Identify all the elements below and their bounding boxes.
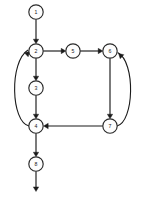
- arrowhead-e4: [33, 76, 38, 81]
- graph-node-7[interactable]: 7: [103, 119, 117, 133]
- arrowhead-e7: [44, 123, 49, 128]
- edge-n4-to-n2: [15, 50, 29, 126]
- node-label-7: 7: [109, 123, 112, 129]
- arrowhead-e5: [33, 114, 38, 119]
- node-label-8: 8: [35, 161, 38, 167]
- arrowhead-e1: [33, 39, 38, 44]
- node-label-1: 1: [35, 9, 38, 15]
- graph-node-4[interactable]: 4: [29, 119, 43, 133]
- graph-node-3[interactable]: 3: [29, 81, 43, 95]
- graph-node-2[interactable]: 2: [29, 44, 43, 58]
- arrowhead-e3: [98, 48, 103, 53]
- node-label-3: 3: [35, 85, 38, 91]
- node-label-4: 4: [35, 123, 38, 129]
- graph-node-5[interactable]: 5: [66, 44, 80, 58]
- graph-node-6[interactable]: 6: [103, 44, 117, 58]
- arrowhead-e10: [33, 152, 38, 157]
- node-label-2: 2: [35, 48, 38, 54]
- arrowhead-e2: [61, 48, 66, 53]
- node-label-6: 6: [109, 48, 112, 54]
- arrowhead-e11: [33, 187, 38, 192]
- node-label-5: 5: [72, 48, 75, 54]
- graph-canvas: 12345678: [0, 0, 145, 200]
- graph-node-1[interactable]: 1: [29, 5, 43, 19]
- control-flow-graph: 12345678: [0, 0, 145, 200]
- nodes-layer: 12345678: [29, 5, 117, 171]
- arrowhead-e6: [107, 114, 112, 119]
- graph-node-8[interactable]: 8: [29, 157, 43, 171]
- edge-n7-to-n6: [117, 53, 131, 126]
